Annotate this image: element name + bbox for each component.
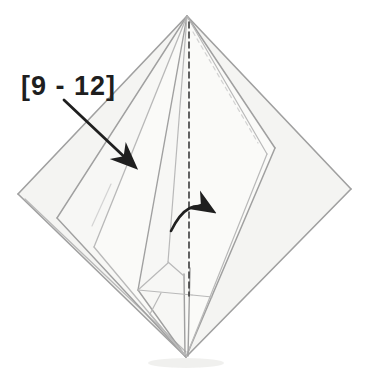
fold-geometry (18, 16, 351, 368)
step-range-label: [9 - 12] (21, 73, 116, 100)
strip-edge (184, 274, 185, 356)
origami-step-diagram: [9 - 12] (0, 0, 368, 374)
origami-diagram-canvas (0, 0, 368, 374)
paper-shadow (148, 358, 224, 368)
